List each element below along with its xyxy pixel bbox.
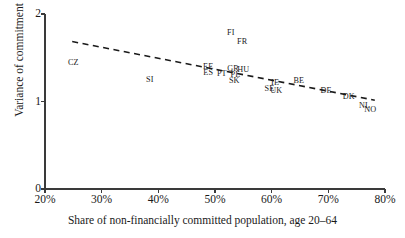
x-tick-label: 50% — [193, 193, 237, 205]
data-point-label: FI — [227, 29, 234, 37]
x-axis-title: Share of non-financially committed popul… — [0, 214, 405, 227]
x-tick-label: 70% — [306, 193, 350, 205]
x-tick-label: 40% — [136, 193, 180, 205]
plot-area: CZSIEEESPTGRHUPLSKFIFRSEIEUKBEDEDKNLNO — [45, 14, 385, 189]
data-point-label: NO — [364, 106, 376, 114]
x-tick-label: 20% — [23, 193, 67, 205]
data-point-label: DK — [343, 93, 355, 101]
data-point-label: BE — [294, 77, 305, 85]
scatter-chart: 0 1 2 Variance of commitment CZSIEEESPTG… — [0, 0, 405, 238]
data-point-label: PT — [217, 70, 227, 78]
axes — [41, 14, 385, 193]
y-axis-title: Variance of commitment — [13, 0, 25, 135]
data-point-label: ES — [203, 69, 213, 77]
x-tick-label: 60% — [250, 193, 294, 205]
x-tick-label: 30% — [80, 193, 124, 205]
plot-svg — [45, 14, 385, 189]
x-tick-label: 80% — [363, 193, 405, 205]
data-point-label: SK — [229, 77, 240, 85]
data-point-label: UK — [270, 87, 282, 95]
data-point-label: SI — [146, 76, 153, 84]
data-point-label: FR — [237, 37, 247, 45]
data-point-label: CZ — [68, 59, 79, 67]
data-point-label: DE — [321, 87, 332, 95]
